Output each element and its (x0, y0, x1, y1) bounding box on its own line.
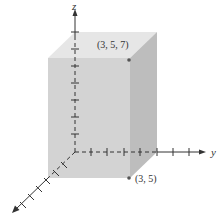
front-face (48, 58, 130, 178)
point-3-5 (127, 176, 131, 180)
box-diagram: z y (3, 5, 7) (3, 5) (0, 0, 224, 218)
z-axis-label: z (71, 0, 77, 12)
point-3-5-7 (127, 58, 131, 62)
y-axis-label: y (210, 146, 216, 158)
point-label-3-5-7: (3, 5, 7) (97, 39, 129, 51)
point-label-3-5: (3, 5) (135, 173, 157, 185)
